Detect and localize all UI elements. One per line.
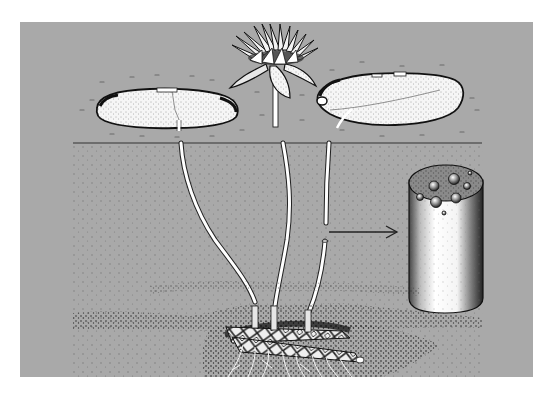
water-lily-illustration — [0, 0, 557, 401]
stalk-cross-section — [409, 165, 483, 313]
left-lily-pad — [97, 88, 238, 131]
